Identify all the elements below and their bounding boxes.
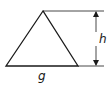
diagram-svg: h g <box>0 0 110 85</box>
height-label: h <box>99 32 107 46</box>
triangle-shape <box>6 11 78 66</box>
triangle-diagram: h g <box>0 0 110 85</box>
base-label: g <box>38 69 46 83</box>
